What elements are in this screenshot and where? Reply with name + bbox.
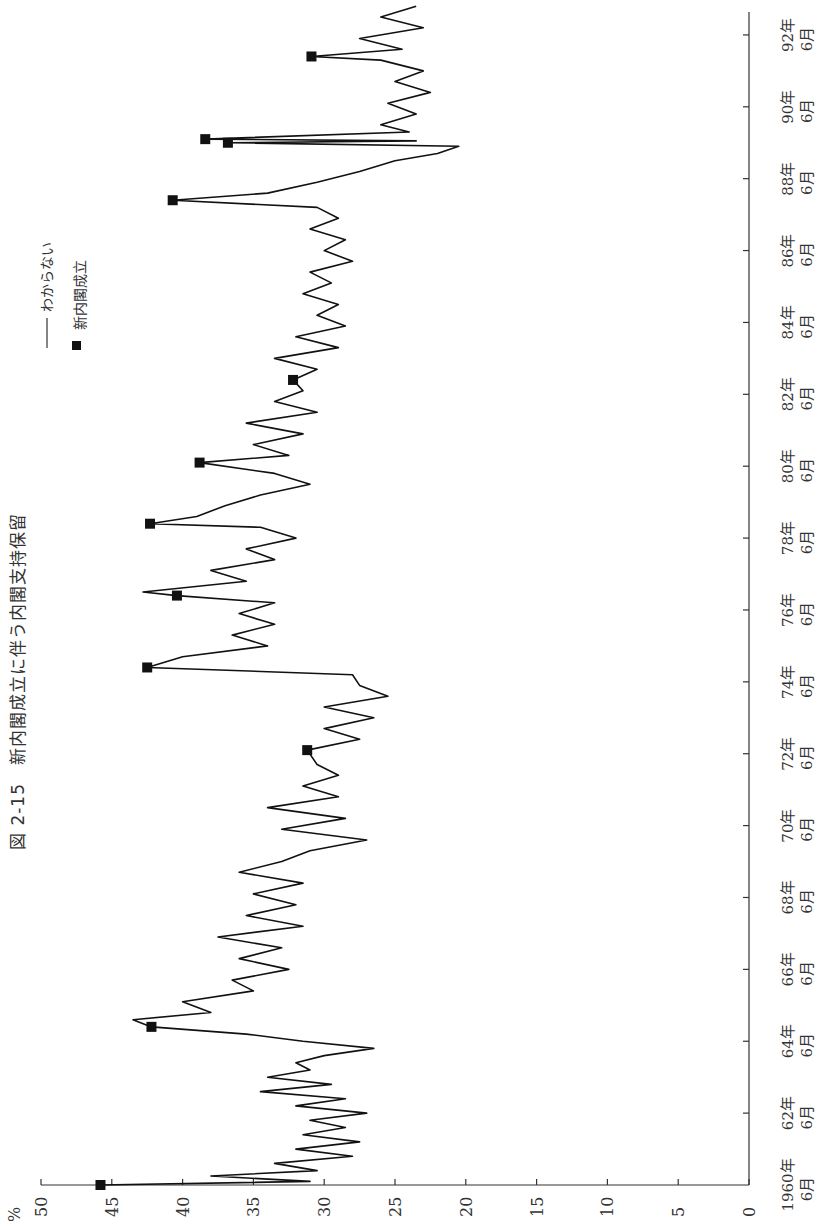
svg-text:86年: 86年 — [779, 234, 797, 268]
time-tick-label: 62年6月 — [779, 1096, 816, 1130]
value-tick-label: 25 — [386, 1197, 405, 1217]
legend-marker-swatch — [72, 341, 81, 350]
svg-text:90年: 90年 — [779, 90, 797, 124]
svg-text:6月: 6月 — [798, 242, 816, 267]
value-tick-label: 15 — [528, 1197, 547, 1217]
value-tick-label: 35 — [244, 1197, 263, 1217]
svg-text:66年: 66年 — [779, 952, 797, 986]
svg-text:6月: 6月 — [798, 961, 816, 986]
svg-text:1960年: 1960年 — [779, 1158, 797, 1211]
chart-title: 図 2-15 新内閣成立に伴う内閣支持保留 — [8, 513, 28, 850]
time-tick-label: 78年6月 — [779, 521, 816, 555]
time-axis-ticks: 1960年6月62年6月64年6月66年6月68年6月70年6月72年6月74年… — [743, 18, 816, 1212]
value-tick-label: 5 — [669, 1207, 688, 1217]
time-tick-label: 66年6月 — [779, 952, 816, 986]
new-cabinet-marker — [195, 458, 205, 468]
svg-text:64年: 64年 — [779, 1024, 797, 1058]
value-axis-unit: % — [5, 1207, 24, 1222]
svg-text:6月: 6月 — [798, 170, 816, 195]
value-tick-label: 50 — [32, 1197, 51, 1217]
svg-text:6月: 6月 — [798, 99, 816, 124]
svg-text:6月: 6月 — [798, 458, 816, 483]
svg-text:6月: 6月 — [798, 674, 816, 699]
new-cabinet-marker — [306, 51, 316, 61]
svg-text:6月: 6月 — [798, 602, 816, 627]
time-tick-label: 92年6月 — [779, 18, 816, 52]
new-cabinet-marker — [223, 138, 233, 148]
legend-label-line: わからない — [39, 242, 55, 312]
value-tick-label: 0 — [740, 1207, 759, 1217]
axes: 50454035302520151050 1960年6月62年6月64年6月66… — [32, 12, 816, 1217]
svg-text:80年: 80年 — [779, 449, 797, 483]
time-tick-label: 82年6月 — [779, 377, 816, 411]
svg-text:72年: 72年 — [779, 737, 797, 771]
time-tick-label: 88年6月 — [779, 162, 816, 196]
value-tick-label: 30 — [315, 1197, 334, 1217]
time-tick-label: 86年6月 — [779, 234, 816, 268]
time-tick-label: 64年6月 — [779, 1024, 816, 1058]
svg-text:6月: 6月 — [798, 1033, 816, 1058]
svg-text:88年: 88年 — [779, 162, 797, 196]
svg-text:78年: 78年 — [779, 521, 797, 555]
value-tick-label: 40 — [174, 1197, 193, 1217]
svg-text:74年: 74年 — [779, 665, 797, 699]
time-tick-label: 72年6月 — [779, 737, 816, 771]
new-cabinet-marker — [145, 519, 155, 529]
svg-text:6月: 6月 — [798, 817, 816, 842]
svg-text:70年: 70年 — [779, 809, 797, 843]
new-cabinet-marker — [168, 195, 178, 205]
svg-text:76年: 76年 — [779, 593, 797, 627]
svg-text:84年: 84年 — [779, 305, 797, 339]
legend-label-marker: 新内閣成立 — [72, 260, 88, 330]
svg-text:92年: 92年 — [779, 18, 797, 52]
time-tick-label: 76年6月 — [779, 593, 816, 627]
new-cabinet-marker — [146, 1022, 156, 1032]
time-tick-label: 74年6月 — [779, 665, 816, 699]
svg-text:6月: 6月 — [798, 27, 816, 52]
new-cabinet-marker — [142, 662, 152, 672]
new-cabinet-marker — [95, 1180, 105, 1190]
new-cabinet-marker — [288, 375, 298, 385]
new-cabinet-marker — [302, 745, 312, 755]
legend: わからない 新内閣成立 — [39, 242, 88, 350]
svg-text:6月: 6月 — [798, 530, 816, 555]
time-tick-label: 1960年6月 — [779, 1158, 816, 1211]
value-tick-label: 45 — [103, 1197, 122, 1217]
time-tick-label: 90年6月 — [779, 90, 816, 124]
svg-text:6月: 6月 — [798, 745, 816, 770]
svg-text:62年: 62年 — [779, 1096, 797, 1130]
value-tick-label: 10 — [598, 1197, 617, 1217]
svg-text:6月: 6月 — [798, 889, 816, 914]
time-tick-label: 70年6月 — [779, 809, 816, 843]
new-cabinet-marker — [200, 134, 210, 144]
value-tick-label: 20 — [457, 1197, 476, 1217]
series-markers-new-cabinet — [95, 51, 316, 1190]
time-tick-label: 80年6月 — [779, 449, 816, 483]
svg-text:6月: 6月 — [798, 386, 816, 411]
chart: 図 2-15 新内閣成立に伴う内閣支持保留 わからない 新内閣成立 504540… — [0, 0, 834, 1229]
new-cabinet-marker — [172, 591, 182, 601]
svg-text:68年: 68年 — [779, 880, 797, 914]
svg-text:6月: 6月 — [798, 1105, 816, 1130]
time-tick-label: 84年6月 — [779, 305, 816, 339]
svg-text:6月: 6月 — [798, 314, 816, 339]
series-line-wakaranai — [101, 6, 459, 1185]
svg-text:6月: 6月 — [798, 1177, 816, 1202]
svg-text:82年: 82年 — [779, 377, 797, 411]
time-tick-label: 68年6月 — [779, 880, 816, 914]
